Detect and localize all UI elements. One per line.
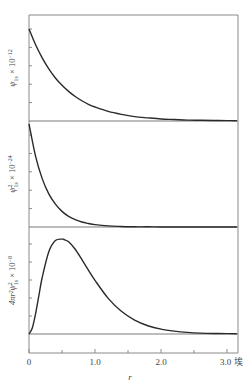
x-tick-label: 3.0 埃: [220, 356, 243, 367]
panel-radial-probability-ylabel: 4πr²ψ21s × 10−8: [7, 256, 19, 305]
panel-radial-probability-curve: [29, 239, 237, 334]
panel-psi-curve: [29, 29, 237, 121]
x-tick-label: 1.0: [89, 357, 101, 367]
panel-psi-squared-curve: [29, 124, 237, 227]
panel-psi-squared-ylabel: ψ21s × 10−24: [7, 155, 19, 193]
x-tick-label: 0: [27, 357, 32, 367]
panel-psi-ylabel: ψ1s × 10−12: [7, 49, 19, 87]
figure: ψ1s × 10−12ψ21s × 10−244πr²ψ21s × 10−801…: [0, 0, 250, 390]
x-tick-label: 2.0: [155, 357, 167, 367]
x-axis-label: r: [128, 372, 132, 382]
